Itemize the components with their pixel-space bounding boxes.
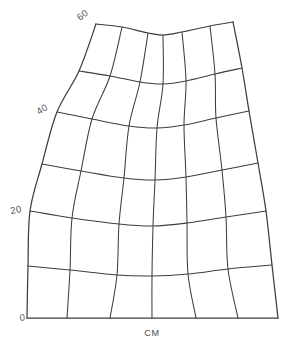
gridline-vertical-0 [27, 24, 96, 318]
gridline-horizontal-50 [79, 68, 242, 84]
axis-tick-label-20: 20 [9, 203, 22, 216]
curvilinear-grid-svg: 0204060 CM [0, 0, 304, 344]
axis-tick-label-0: 0 [19, 311, 26, 323]
gridline-vertical-4 [182, 32, 196, 318]
gridline-horizontal-10 [28, 265, 272, 276]
gridline-horizontal-30 [42, 163, 258, 180]
figure-canvas: 0204060 CM [0, 0, 304, 344]
gridline-horizontal-40 [57, 111, 249, 128]
gridline-horizontal-20 [30, 211, 266, 226]
axis-tick-label-60: 60 [74, 7, 90, 23]
unit-caption-label: CM [144, 328, 160, 338]
vertical-gridline-group [27, 22, 278, 318]
gridline-vertical-6 [233, 22, 278, 318]
gridline-horizontal-60 [96, 22, 233, 35]
axis-tick-label-40: 40 [34, 101, 49, 116]
